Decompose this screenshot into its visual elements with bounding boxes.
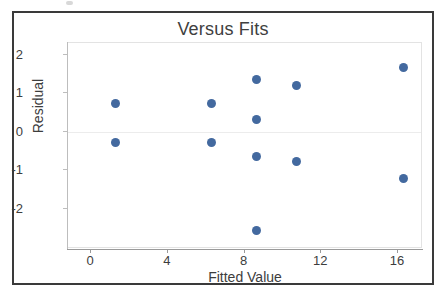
chart-figure: Versus Fits 210-1-2 0481216 Fitted Value…	[12, 11, 434, 285]
y-tick-label: -2	[0, 200, 23, 215]
data-point	[111, 99, 120, 108]
data-point	[292, 81, 301, 90]
data-point	[207, 99, 216, 108]
y-tick-mark	[63, 54, 67, 55]
x-tick-label: 12	[300, 253, 340, 268]
data-point	[252, 226, 261, 235]
data-point	[111, 138, 120, 147]
y-tick-label: 0	[0, 123, 23, 138]
scan-artifact-speck	[66, 1, 73, 5]
x-tick-mark	[397, 249, 398, 253]
x-tick-mark	[244, 249, 245, 253]
x-tick-mark	[320, 249, 321, 253]
data-point	[399, 63, 408, 72]
x-tick-label: 16	[377, 253, 417, 268]
x-tick-label: 0	[70, 253, 110, 268]
data-point	[399, 174, 408, 183]
y-tick-label: -1	[0, 162, 23, 177]
data-point	[252, 115, 261, 124]
y-tick-label: 2	[0, 46, 23, 61]
chart-title: Versus Fits	[14, 19, 432, 40]
data-point	[292, 157, 301, 166]
y-tick-label: 1	[0, 85, 23, 100]
data-point	[252, 152, 261, 161]
data-point	[207, 138, 216, 147]
data-point	[252, 75, 261, 84]
x-tick-label: 8	[224, 253, 264, 268]
y-tick-mark	[63, 131, 67, 132]
y-tick-mark	[63, 92, 67, 93]
y-tick-mark	[63, 169, 67, 170]
x-tick-label: 4	[147, 253, 187, 268]
y-axis-title: Residual	[30, 36, 46, 176]
y-axis-line	[67, 42, 68, 249]
x-tick-mark	[167, 249, 168, 253]
x-axis-title: Fitted Value	[67, 269, 423, 285]
x-axis-line	[67, 249, 423, 250]
y-tick-mark	[63, 208, 67, 209]
x-tick-mark	[90, 249, 91, 253]
zero-gridline	[68, 132, 421, 133]
plot-area	[67, 42, 422, 248]
